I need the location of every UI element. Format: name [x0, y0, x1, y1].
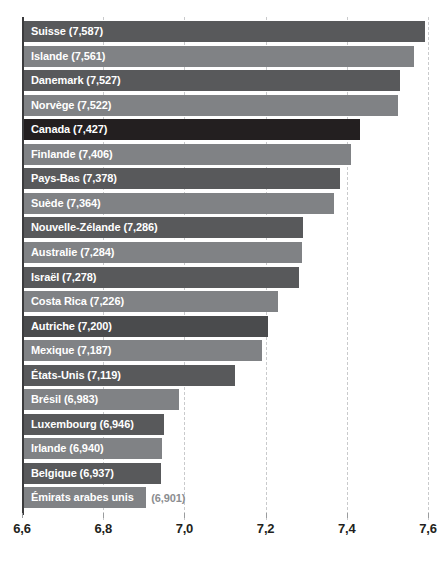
bar[interactable]: Norvège (7,522) — [24, 95, 398, 116]
x-axis: 6,66,87,07,27,47,6 — [0, 521, 435, 545]
bar-row[interactable]: Brésil (6,983) — [22, 389, 428, 414]
bar-row[interactable]: Nouvelle-Zélande (7,286) — [22, 217, 428, 242]
x-tick-label: 6,6 — [13, 521, 30, 536]
bar-label: Pays-Bas (7,378) — [24, 173, 117, 184]
bar-label: Émirats arabes unis — [24, 492, 134, 503]
bar[interactable]: Islande (7,561) — [24, 46, 414, 67]
bar-label: Finlande (7,406) — [24, 149, 113, 160]
x-tick-label: 6,8 — [94, 521, 111, 536]
bar-label: Autriche (7,200) — [24, 321, 112, 332]
bar-row[interactable]: Luxembourg (6,946) — [22, 414, 428, 439]
bar-label: Belgique (6,937) — [24, 468, 114, 479]
bar-row[interactable]: Israël (7,278) — [22, 267, 428, 292]
bar[interactable]: Mexique (7,187) — [24, 340, 262, 361]
bar-series: Suisse (7,587)Islande (7,561)Danemark (7… — [22, 21, 428, 512]
bar-row[interactable]: Émirats arabes unis(6,901) — [22, 487, 428, 512]
bar-label: Brésil (6,983) — [24, 394, 98, 405]
x-tick-mark — [347, 513, 348, 518]
bar-label: Israël (7,278) — [24, 272, 96, 283]
x-tick-label: 7,4 — [338, 521, 355, 536]
bar-label: Islande (7,561) — [24, 51, 105, 62]
plot-area: Suisse (7,587)Islande (7,561)Danemark (7… — [22, 21, 428, 512]
bar-row[interactable]: Canada (7,427) — [22, 119, 428, 144]
bar-row[interactable]: Pays-Bas (7,378) — [22, 168, 428, 193]
bar[interactable]: Belgique (6,937) — [24, 463, 161, 484]
bar-label: Luxembourg (6,946) — [24, 419, 134, 430]
bar[interactable]: Suède (7,364) — [24, 193, 334, 214]
bar-row[interactable]: Belgique (6,937) — [22, 463, 428, 488]
bar-row[interactable]: Suisse (7,587) — [22, 21, 428, 46]
bar-label: Australie (7,284) — [24, 247, 114, 258]
x-tick-label: 7,0 — [176, 521, 193, 536]
bar[interactable]: Danemark (7,527) — [24, 70, 400, 91]
bar[interactable]: États-Unis (7,119) — [24, 365, 235, 386]
bar[interactable]: Luxembourg (6,946) — [24, 414, 164, 435]
bar-label: Mexique (7,187) — [24, 345, 111, 356]
bar-row[interactable]: Mexique (7,187) — [22, 340, 428, 365]
bar-label: Canada (7,427) — [24, 124, 107, 135]
bar-value-outside: (6,901) — [146, 487, 185, 508]
x-tick-label: 7,2 — [257, 521, 274, 536]
bar-row[interactable]: Australie (7,284) — [22, 242, 428, 267]
bar-row[interactable]: Danemark (7,527) — [22, 70, 428, 95]
x-tick-mark — [184, 513, 185, 518]
bar[interactable]: Costa Rica (7,226) — [24, 291, 278, 312]
bar-label: Norvège (7,522) — [24, 100, 111, 111]
bar[interactable]: Émirats arabes unis(6,901) — [24, 487, 146, 508]
bar-row[interactable]: Autriche (7,200) — [22, 316, 428, 341]
bar-row[interactable]: Irlande (6,940) — [22, 438, 428, 463]
x-tick-mark — [266, 513, 267, 518]
bar-label: Costa Rica (7,226) — [24, 296, 124, 307]
x-tick-label: 7,6 — [419, 521, 436, 536]
bar[interactable]: Australie (7,284) — [24, 242, 302, 263]
x-tick-mark — [428, 513, 429, 518]
bar-label: Nouvelle-Zélande (7,286) — [24, 222, 158, 233]
bar[interactable]: Nouvelle-Zélande (7,286) — [24, 217, 303, 238]
x-tick-mark — [103, 513, 104, 518]
bar-row[interactable]: Suède (7,364) — [22, 193, 428, 218]
x-tick-mark — [22, 513, 23, 518]
bar-label: Danemark (7,527) — [24, 75, 121, 86]
bar[interactable]: Brésil (6,983) — [24, 389, 179, 410]
bar[interactable]: Irlande (6,940) — [24, 438, 162, 459]
bar-row[interactable]: États-Unis (7,119) — [22, 365, 428, 390]
bar[interactable]: Israël (7,278) — [24, 267, 299, 288]
bar[interactable]: Suisse (7,587) — [24, 21, 425, 42]
gridline — [428, 17, 429, 520]
bar-label: Irlande (6,940) — [24, 443, 103, 454]
bar-row[interactable]: Islande (7,561) — [22, 46, 428, 71]
bar[interactable]: Finlande (7,406) — [24, 144, 351, 165]
bar-row[interactable]: Costa Rica (7,226) — [22, 291, 428, 316]
bar-label: Suède (7,364) — [24, 198, 101, 209]
bar-label: États-Unis (7,119) — [24, 370, 121, 381]
bar[interactable]: Pays-Bas (7,378) — [24, 168, 340, 189]
bar[interactable]: Canada (7,427) — [24, 119, 360, 140]
bar-row[interactable]: Finlande (7,406) — [22, 144, 428, 169]
bar[interactable]: Autriche (7,200) — [24, 316, 268, 337]
bar-label: Suisse (7,587) — [24, 26, 103, 37]
bar-row[interactable]: Norvège (7,522) — [22, 95, 428, 120]
